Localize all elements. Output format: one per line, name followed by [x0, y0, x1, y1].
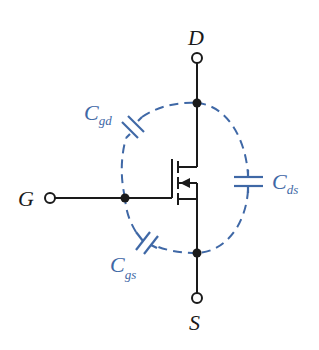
source-junction	[193, 249, 202, 258]
cgs-label: Cgs	[110, 252, 136, 282]
parasitic-loop	[122, 103, 248, 253]
channel-arrow-icon	[180, 178, 190, 188]
gate-junction	[121, 194, 130, 203]
cgd-label: Cgd	[84, 100, 112, 128]
source-label: S	[189, 310, 200, 335]
cds-label: Cds	[272, 169, 298, 197]
capacitor-cds	[234, 170, 263, 193]
drain-terminal	[192, 53, 202, 63]
drain-junction	[193, 99, 202, 108]
capacitor-cgd	[122, 116, 144, 138]
mosfet-diagram: D G S Cgd Cds Cgs	[0, 0, 319, 350]
capacitor-cgs	[136, 232, 158, 254]
gate-label: G	[18, 186, 34, 211]
circuit-wires	[55, 63, 197, 293]
gate-terminal	[45, 193, 55, 203]
source-terminal	[192, 293, 202, 303]
drain-label: D	[187, 25, 204, 50]
